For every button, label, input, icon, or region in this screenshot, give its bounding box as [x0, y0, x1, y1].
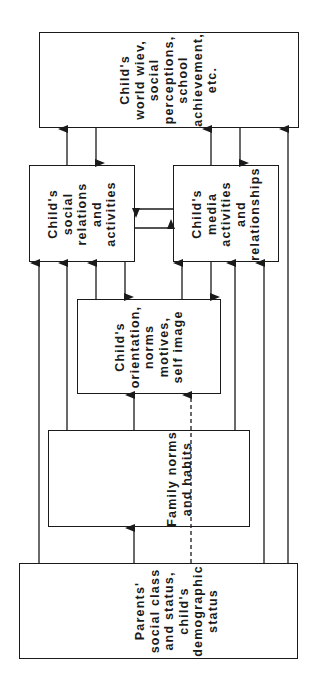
label-line: relations [75, 181, 90, 247]
label-line: achievement, [191, 33, 206, 127]
node-parents: Parents' social class and status, child'… [19, 563, 298, 659]
node-label: Child's social relations and activities [46, 181, 119, 247]
label-line: social [60, 181, 75, 247]
label-line: social [147, 33, 162, 127]
label-line: Parents' [133, 565, 148, 657]
label-line: Family norms [165, 431, 180, 527]
label-line: demographic [191, 565, 206, 657]
label-line: activities [219, 167, 234, 260]
label-line: Child's [118, 33, 133, 127]
node-label: Parents' social class and status, child'… [133, 565, 220, 657]
label-line: perceptions, [162, 33, 177, 127]
label-line: status [205, 565, 220, 657]
label-line: school [176, 33, 191, 127]
label-line: and [233, 167, 248, 260]
label-line: and status, [162, 565, 177, 657]
node-family: Family norms and habits [48, 430, 250, 527]
label-line: social class [147, 565, 162, 657]
label-line: world wiev, [133, 33, 148, 127]
node-label: Family norms and habits [165, 431, 194, 527]
node-label: Child's world wiev, social perceptions, … [118, 33, 220, 127]
label-line: and [89, 181, 104, 247]
label-line: relationships [248, 167, 263, 260]
node-label: Child's orientation, norms motives, self… [113, 305, 186, 387]
label-line: Child's [190, 167, 205, 260]
label-line: orientation, [127, 305, 142, 387]
node-social: Child's social relations and activities [29, 165, 135, 262]
label-line: and habits [179, 431, 194, 527]
label-line: norms [142, 305, 157, 387]
node-label: Child's media activities and relationshi… [190, 167, 263, 260]
node-world-view: Child's world wiev, social perceptions, … [39, 32, 299, 128]
label-line: Child's [46, 181, 61, 247]
label-line: Child's [113, 305, 128, 387]
label-line: etc. [205, 33, 220, 127]
label-line: media [204, 167, 219, 260]
node-orientation: Child's orientation, norms motives, self… [77, 299, 221, 394]
label-line: child's [176, 565, 191, 657]
label-line: motives, [156, 305, 171, 387]
label-line: self image [171, 305, 186, 387]
node-media: Child's media activities and relationshi… [173, 165, 279, 262]
label-line: activities [104, 181, 119, 247]
